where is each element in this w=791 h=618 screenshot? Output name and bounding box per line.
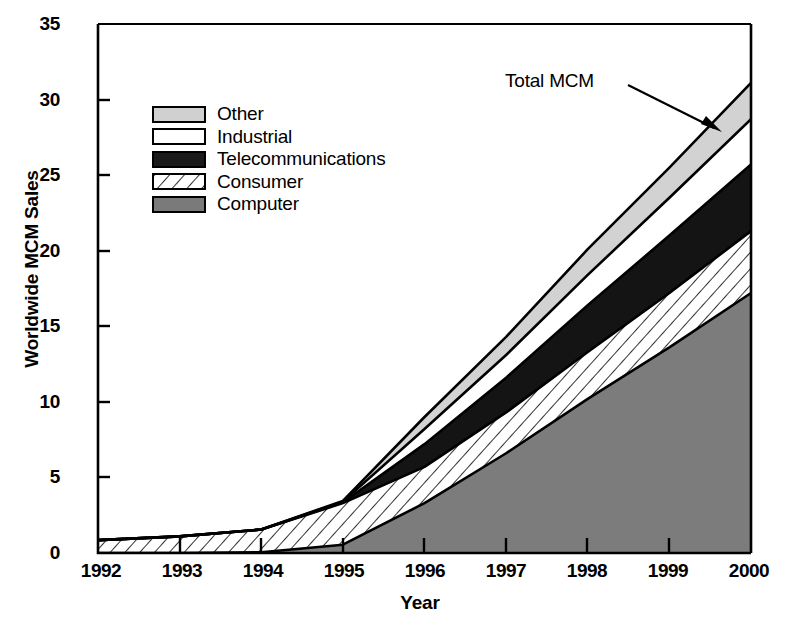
legend-label-telecommunications: Telecommunications [217, 148, 386, 170]
legend-item-consumer[interactable]: Consumer [152, 171, 386, 194]
legend-swatch-industrial-icon [152, 128, 206, 145]
stacked-area-plot [0, 0, 791, 618]
total-mcm-annotation-label: Total MCM [505, 70, 594, 92]
legend-item-computer[interactable]: Computer [152, 193, 386, 216]
legend-swatch-telecommunications-icon [152, 151, 206, 168]
y-axis-ticks [98, 100, 110, 477]
legend-label-consumer: Consumer [217, 171, 303, 193]
legend-item-telecommunications[interactable]: Telecommunications [152, 148, 386, 171]
legend-label-computer: Computer [217, 193, 299, 215]
legend-label-industrial: Industrial [217, 126, 292, 148]
chart-figure: Worldwide MCM Sales 0 5 10 15 20 25 30 3… [0, 0, 791, 618]
legend-label-other: Other [217, 103, 264, 125]
legend-swatch-computer-icon [152, 196, 206, 213]
legend-swatch-other-icon [152, 106, 206, 123]
legend-swatch-consumer-icon [152, 173, 206, 190]
legend-item-industrial[interactable]: Industrial [152, 126, 386, 149]
legend: Other Industrial Telecommunications Cons… [152, 103, 386, 216]
legend-item-other[interactable]: Other [152, 103, 386, 126]
total-mcm-arrow [628, 85, 722, 132]
